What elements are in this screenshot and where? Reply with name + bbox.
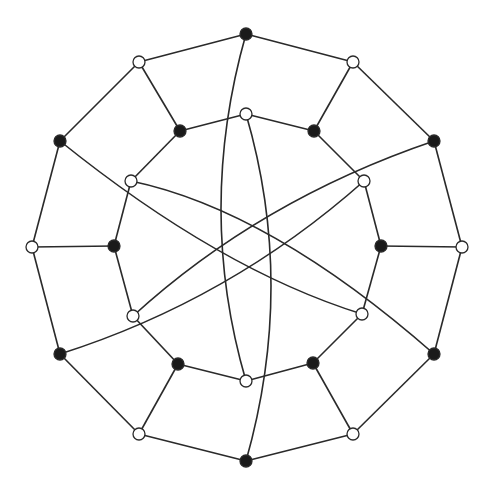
graph-edge [353,62,434,141]
graph-edge [313,363,353,434]
graph-edge [139,364,178,434]
graph-edge [180,114,246,131]
graph-edge [381,246,462,247]
white-vertex [133,56,145,68]
black-vertex [375,240,387,252]
white-vertex [127,310,139,322]
nodes-layer [26,28,468,467]
graph-edge [114,181,131,246]
graph-edge [221,34,246,381]
edges-layer [32,34,462,461]
black-vertex [240,28,252,40]
black-vertex [428,348,440,360]
graph-edge [139,62,180,131]
graph-edge [246,363,313,381]
black-vertex [172,358,184,370]
graph-edge [362,246,381,314]
white-vertex [356,308,368,320]
graph-edge [131,181,434,354]
graph-edge [60,141,362,314]
graph-edge [434,247,462,354]
white-vertex [347,428,359,440]
graph-svg [0,0,488,486]
graph-edge [314,131,364,181]
graph-edge [32,247,60,354]
graph-edge [139,34,246,62]
graph-edge [114,246,133,316]
graph-edge [131,131,180,181]
graph-edge [32,246,114,247]
graph-edge [133,141,434,316]
white-vertex [347,56,359,68]
graph-edge [353,354,434,434]
graph-edge [60,354,139,434]
white-vertex [240,375,252,387]
graph-edge [133,316,178,364]
black-vertex [308,125,320,137]
white-vertex [358,175,370,187]
white-vertex [240,108,252,120]
black-vertex [240,455,252,467]
black-vertex [54,135,66,147]
black-vertex [108,240,120,252]
graph-edge [246,114,271,461]
graph-edge [314,62,353,131]
graph-edge [178,364,246,381]
black-vertex [307,357,319,369]
graph-edge [434,141,462,247]
white-vertex [125,175,137,187]
graph-edge [60,62,139,141]
graph-edge [246,34,353,62]
graph-edge [139,434,246,461]
graph-edge [364,181,381,246]
white-vertex [456,241,468,253]
graph-edge [246,114,314,131]
black-vertex [174,125,186,137]
graph-edge [32,141,60,247]
white-vertex [26,241,38,253]
black-vertex [54,348,66,360]
graph-edge [313,314,362,363]
graph-edge [246,434,353,461]
graph-diagram [0,0,488,486]
black-vertex [428,135,440,147]
white-vertex [133,428,145,440]
